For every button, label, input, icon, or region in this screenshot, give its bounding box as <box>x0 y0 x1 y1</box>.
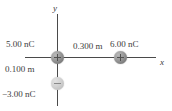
x-axis-label: x <box>160 58 164 67</box>
charge-label-bottom: −3.00 nC <box>2 90 36 99</box>
charge-label-right: 6.00 nC <box>110 40 139 49</box>
y-axis-label: y <box>53 4 57 13</box>
distance-label-vertical: 0.100 m <box>5 65 35 74</box>
x-axis-line <box>25 57 156 58</box>
charge-label-origin: 5.00 nC <box>6 40 35 49</box>
distance-label-horizontal: 0.300 m <box>73 42 103 51</box>
physics-diagram-figure: y x 5.00 nC 6.00 nC −3.00 nC 0.300 m 0.1… <box>0 0 172 111</box>
charge-sphere-bottom <box>51 77 64 90</box>
charge-sphere-right <box>114 51 127 64</box>
charge-sphere-origin <box>51 51 64 64</box>
